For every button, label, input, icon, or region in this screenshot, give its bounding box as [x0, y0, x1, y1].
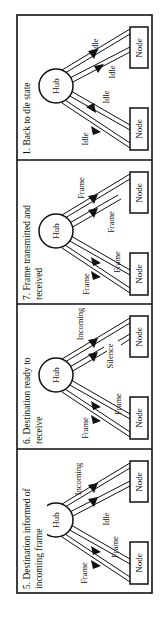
signal-label: Frame	[76, 177, 86, 199]
hub-label: Hub	[51, 223, 61, 239]
panel-7: Hub Node Node Frame Frame Frame Frame 7.…	[22, 172, 148, 300]
signal-label: Frame	[81, 273, 91, 295]
hub-label: Hub	[51, 367, 61, 383]
signal-label: Silence	[105, 343, 115, 368]
hub-label: Hub	[51, 512, 61, 528]
signal-label: Frame	[110, 536, 120, 558]
hub-node-signaling-diagram: Hub Node Node Idle Idle Idle Idle 1. Bac…	[0, 0, 160, 619]
signal-label: Idle	[90, 38, 100, 51]
panel-6: Hub Node Node Incoming Silence Frame Fra…	[22, 307, 148, 444]
signal-label: Frame	[112, 251, 122, 273]
signal-label: Idle	[80, 132, 90, 145]
panel-title: 7. Frame transmitted and received	[22, 203, 44, 300]
node-label: Node	[134, 408, 144, 428]
signal-label: Idle	[101, 512, 111, 525]
signal-label: Frame	[113, 393, 123, 415]
signal-label: Frame	[106, 211, 116, 233]
signal-label: Incoming	[75, 307, 85, 340]
node-label: Node	[134, 38, 144, 58]
panel-1: Hub Node Node Idle Idle Idle Idle 1. Bac…	[22, 27, 148, 155]
node-label: Node	[134, 472, 144, 492]
panel-title: 1. Back to dle state	[22, 82, 32, 155]
node-label: Node	[134, 553, 144, 573]
node-label: Node	[134, 183, 144, 203]
node-label: Node	[134, 327, 144, 347]
signal-label: Idle	[101, 90, 111, 103]
signal-label: Frame	[79, 562, 89, 584]
node-label: Node	[134, 264, 144, 284]
signal-label: Idle	[107, 65, 117, 78]
signal-label: Frame	[80, 417, 90, 439]
signal-label: Incoming	[73, 462, 83, 495]
panel-5: Hub Node Node Incoming Idle Frame Frame …	[19, 457, 148, 589]
node-label: Node	[134, 119, 144, 139]
hub-label: Hub	[51, 78, 61, 94]
